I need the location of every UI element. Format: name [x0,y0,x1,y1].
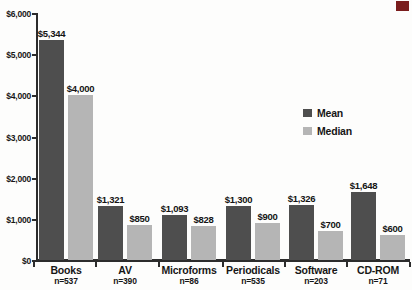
median-bar-periodicals [255,223,280,260]
page-corner-decoration [396,1,409,11]
x-axis-tick [158,262,160,267]
legend-label-mean: Mean [317,107,343,119]
legend-label-median: Median [317,125,352,137]
mean-color-swatch [303,109,312,117]
median-value-label: $900 [258,211,278,222]
mean-value-label: $1,326 [288,193,315,204]
scanned-bar-chart-page: $6,000$5,000$4,000$3,000$2,000$1,000$0 $… [0,0,412,290]
mean-value-label: $1,300 [225,194,252,205]
median-value-label: $4,000 [67,83,94,94]
sample-size-label: n=535 [241,276,264,286]
x-axis-tick [222,262,224,267]
median-bar-books [68,95,93,260]
mean-bar-software [289,205,314,260]
category-label: CD-ROM [357,264,399,276]
x-axis-tick [409,262,411,267]
y-axis-tick [32,219,37,221]
median-value-label: $600 [383,223,403,234]
median-bar-microforms [191,226,216,260]
median-value-label: $828 [194,214,214,225]
sample-size-label: n=537 [54,276,77,286]
mean-bar-books [39,40,64,260]
mean-value-label: $1,093 [161,203,188,214]
median-bar-software [318,231,343,260]
category-label: Periodicals [226,264,280,276]
sample-size-label: n=71 [369,276,388,286]
median-color-swatch [303,127,312,135]
mean-value-label: $5,344 [38,28,65,39]
y-axis-tick-label: $6,000 [0,9,31,19]
y-axis-tick [32,54,37,56]
category-label: Microforms [161,264,216,276]
legend-item-mean: Mean [303,107,352,119]
y-axis-tick-label: $2,000 [0,174,31,184]
x-axis-tick [33,262,35,267]
mean-bar-periodicals [226,206,251,260]
mean-bar-cd-rom [351,192,376,260]
mean-bar-av [98,206,123,260]
y-axis-tick [32,95,37,97]
y-axis-tick-label: $0 [0,256,31,266]
x-axis-tick [284,262,286,267]
y-axis-tick-label: $1,000 [0,215,31,225]
median-bar-av [127,225,152,260]
y-axis-tick [32,13,37,15]
legend-item-median: Median [303,125,352,137]
y-axis-tick-label: $3,000 [0,133,31,143]
mean-bar-microforms [162,215,187,260]
y-axis-tick [32,137,37,139]
x-axis-tick [95,262,97,267]
category-label: Software [295,264,338,276]
sample-size-label: n=390 [113,276,136,286]
legend: Mean Median [303,107,352,143]
median-value-label: $850 [130,213,150,224]
median-value-label: $700 [321,219,341,230]
sample-size-label: n=86 [180,276,199,286]
sample-size-label: n=203 [304,276,327,286]
x-axis-tick [346,262,348,267]
category-label: Books [50,264,81,276]
y-axis-tick-label: $4,000 [0,91,31,101]
median-bar-cd-rom [380,235,405,260]
mean-value-label: $1,648 [350,180,377,191]
category-label: AV [118,264,131,276]
y-axis-tick [32,178,37,180]
mean-value-label: $1,321 [97,194,124,205]
y-axis-tick-label: $5,000 [0,50,31,60]
